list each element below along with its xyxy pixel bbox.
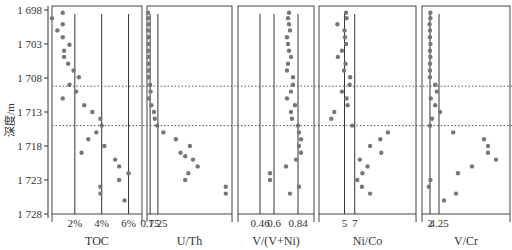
data-point bbox=[332, 110, 336, 114]
data-point bbox=[293, 103, 297, 107]
data-point bbox=[482, 137, 486, 141]
data-point bbox=[427, 185, 431, 189]
data-point bbox=[428, 16, 432, 20]
data-point bbox=[428, 35, 432, 39]
reference-line-label: 4.25 bbox=[429, 217, 449, 229]
data-point bbox=[61, 11, 65, 15]
depth-tick-label: 1 703 bbox=[17, 38, 42, 50]
data-point bbox=[427, 22, 431, 26]
data-point bbox=[147, 62, 151, 66]
data-point bbox=[268, 178, 272, 182]
data-point bbox=[188, 144, 192, 148]
panel-title: TOC bbox=[85, 234, 109, 248]
data-point bbox=[195, 164, 199, 168]
data-point bbox=[360, 171, 364, 175]
data-point bbox=[342, 28, 346, 32]
data-point bbox=[355, 178, 359, 182]
depth-tick-label: 1 698 bbox=[17, 4, 42, 16]
data-point bbox=[454, 191, 458, 195]
data-point bbox=[428, 49, 432, 53]
data-point bbox=[178, 151, 182, 155]
data-point bbox=[86, 137, 90, 141]
data-point bbox=[433, 103, 437, 107]
data-point bbox=[358, 157, 362, 161]
geochem-depth-profile-chart: 1 6981 7031 7081 7131 7181 7231 728 深度/m… bbox=[0, 0, 512, 250]
data-point bbox=[428, 178, 432, 182]
data-point bbox=[146, 49, 150, 53]
reference-line-label: 0.84 bbox=[288, 217, 308, 229]
reference-line-label: 4% bbox=[94, 217, 109, 229]
data-point bbox=[146, 55, 150, 59]
data-point bbox=[442, 198, 446, 202]
data-point bbox=[66, 62, 70, 66]
data-point bbox=[146, 22, 150, 26]
data-point bbox=[344, 16, 348, 20]
data-point bbox=[98, 191, 102, 195]
data-point bbox=[74, 89, 78, 93]
data-point bbox=[117, 164, 121, 168]
data-point bbox=[161, 130, 165, 134]
data-point bbox=[183, 154, 187, 158]
data-point bbox=[386, 130, 390, 134]
data-point bbox=[345, 103, 349, 107]
data-point bbox=[368, 191, 372, 195]
data-point bbox=[285, 96, 289, 100]
depth-tick-label: 1 718 bbox=[17, 140, 42, 152]
data-point bbox=[191, 157, 195, 161]
data-point bbox=[224, 191, 228, 195]
data-point bbox=[286, 62, 290, 66]
data-point bbox=[486, 144, 490, 148]
panel-title: V/Cr bbox=[454, 234, 478, 248]
data-point bbox=[486, 151, 490, 155]
data-point bbox=[429, 96, 433, 100]
data-point bbox=[285, 68, 289, 72]
data-point bbox=[287, 22, 291, 26]
data-point bbox=[122, 198, 126, 202]
data-point bbox=[148, 89, 152, 93]
data-point bbox=[146, 28, 150, 32]
data-point bbox=[290, 117, 294, 121]
data-point bbox=[297, 130, 301, 134]
data-point bbox=[94, 130, 98, 134]
panel-v-v-ni-: 0.460.60.84V/(V+Ni) bbox=[238, 6, 314, 248]
data-point bbox=[183, 178, 187, 182]
data-point bbox=[77, 75, 81, 79]
reference-line-label: 5 bbox=[342, 217, 348, 229]
data-point bbox=[470, 164, 474, 168]
data-point bbox=[146, 35, 150, 39]
data-point bbox=[286, 42, 290, 46]
data-point bbox=[289, 89, 293, 93]
data-point bbox=[113, 157, 117, 161]
data-point bbox=[294, 157, 298, 161]
data-point bbox=[299, 137, 303, 141]
data-point bbox=[224, 185, 228, 189]
panel-ni-co: 57Ni/Co bbox=[319, 6, 416, 248]
data-point bbox=[438, 110, 442, 114]
data-point bbox=[428, 55, 432, 59]
data-point bbox=[67, 42, 71, 46]
data-point bbox=[451, 130, 455, 134]
data-point bbox=[146, 42, 150, 46]
data-point bbox=[147, 75, 151, 79]
data-point bbox=[90, 110, 94, 114]
data-point bbox=[435, 89, 439, 93]
data-point bbox=[67, 83, 71, 87]
data-point bbox=[456, 171, 460, 175]
data-point bbox=[340, 89, 344, 93]
panel-frame bbox=[422, 6, 510, 214]
reference-line-label: 0.6 bbox=[267, 217, 281, 229]
data-point bbox=[61, 22, 65, 26]
data-point bbox=[343, 35, 347, 39]
data-point bbox=[342, 68, 346, 72]
data-point bbox=[152, 110, 156, 114]
data-point bbox=[289, 110, 293, 114]
data-point bbox=[428, 62, 432, 66]
data-point bbox=[343, 62, 347, 66]
data-point bbox=[378, 137, 382, 141]
reference-line-label: 7 bbox=[352, 217, 358, 229]
data-point bbox=[428, 75, 432, 79]
data-point bbox=[368, 144, 372, 148]
data-point bbox=[61, 35, 65, 39]
data-point bbox=[344, 11, 348, 15]
data-point bbox=[146, 11, 150, 15]
